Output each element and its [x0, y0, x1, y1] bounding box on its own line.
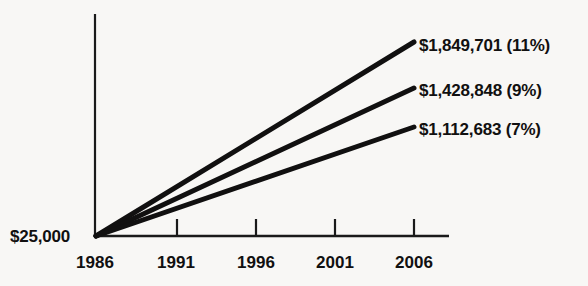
series-annotation-9-percent: $1,428,848 (9%) — [419, 82, 542, 99]
x-tick-label-2006: 2006 — [389, 254, 439, 271]
series-annotation-11-percent: $1,849,701 (11%) — [419, 37, 550, 54]
series-annotation-7-percent: $1,112,683 (7%) — [419, 121, 541, 138]
growth-projection-chart: $1,849,701 (11%) $1,428,848 (9%) $1,112,… — [0, 0, 588, 286]
x-tick-label-1996: 1996 — [231, 254, 281, 271]
series-line-9-percent — [96, 88, 414, 236]
x-tick-label-1986: 1986 — [70, 254, 120, 271]
y-axis-origin-label: $25,000 — [10, 228, 70, 245]
series-line-11-percent — [96, 42, 414, 236]
x-tick-label-2001: 2001 — [310, 254, 360, 271]
x-tick-label-1991: 1991 — [151, 254, 201, 271]
